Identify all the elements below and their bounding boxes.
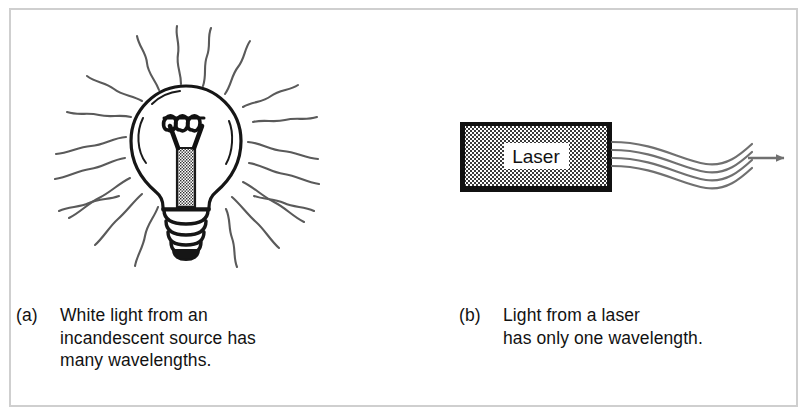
caption-a-label: (a) (16, 304, 60, 327)
caption-a-text: White light from an incandescent source … (60, 304, 416, 372)
caption-a-line-1: White light from an (60, 304, 416, 327)
caption-a-line-2: incandescent source has (60, 327, 416, 350)
caption-a-line-3: many wavelengths. (60, 349, 416, 372)
caption-b-label: (b) (459, 304, 503, 327)
caption-b-line-2: has only one wavelength. (503, 327, 799, 350)
caption-b-text: Light from a laser has only one waveleng… (503, 304, 799, 349)
caption-b: (b) Light from a laser has only one wave… (459, 304, 799, 349)
figure-root: Laser (a) White light from an incandesce… (0, 0, 812, 420)
caption-b-line-1: Light from a laser (503, 304, 799, 327)
caption-a: (a) White light from an incandescent sou… (16, 304, 416, 372)
